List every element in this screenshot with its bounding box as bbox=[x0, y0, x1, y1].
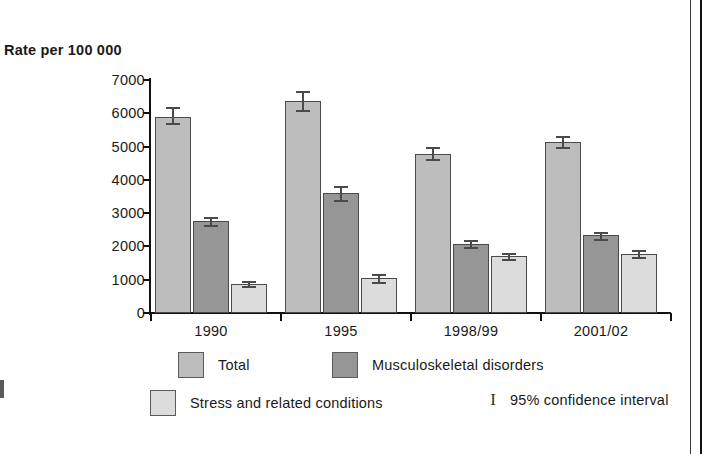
legend-swatch-total bbox=[178, 352, 204, 378]
x-tick-label: 1995 bbox=[324, 323, 357, 339]
x-tick-mark bbox=[670, 313, 672, 321]
x-tick-label: 1998/99 bbox=[444, 323, 499, 339]
error-bar-cap-lower bbox=[594, 239, 608, 241]
error-bar-cap-upper bbox=[464, 240, 478, 242]
error-bar-cap-upper bbox=[242, 281, 256, 283]
bar bbox=[583, 235, 619, 313]
legend-item-total: Total bbox=[178, 352, 250, 378]
error-bar-cap-lower bbox=[296, 110, 310, 112]
legend-label-confidence-interval: 95% confidence interval bbox=[510, 392, 669, 408]
error-bar-cap-lower bbox=[242, 286, 256, 288]
error-bar-cap-lower bbox=[502, 259, 516, 261]
error-bar-cap-upper bbox=[594, 232, 608, 234]
bar bbox=[415, 154, 451, 313]
legend-swatch-stress-and-related-conditions bbox=[150, 390, 176, 416]
legend-swatch-musculoskeletal-disorders bbox=[332, 352, 358, 378]
x-tick-mark bbox=[150, 313, 152, 321]
error-bar-cap-lower bbox=[464, 247, 478, 249]
page-border-right-inner bbox=[690, 0, 691, 454]
error-bar-cap-lower bbox=[334, 200, 348, 202]
legend-row-1: Total Musculoskeletal disorders bbox=[150, 352, 680, 386]
x-tick-mark bbox=[540, 313, 542, 321]
bar bbox=[155, 117, 191, 313]
x-tick-mark bbox=[410, 313, 412, 321]
error-bar-cap-lower bbox=[632, 257, 646, 259]
error-bar-cap-upper bbox=[204, 217, 218, 219]
x-tick-mark bbox=[280, 313, 282, 321]
bar bbox=[545, 142, 581, 313]
plot-area bbox=[150, 80, 670, 313]
legend-row-2: Stress and related conditions I 95% conf… bbox=[150, 390, 680, 424]
error-bar-cap-lower bbox=[166, 123, 180, 125]
y-tick-label: 5000 bbox=[112, 139, 145, 155]
y-tick-label: 7000 bbox=[112, 72, 145, 88]
error-bar-cap-upper bbox=[334, 186, 348, 188]
bar bbox=[285, 101, 321, 313]
page-edge-mark bbox=[0, 380, 4, 398]
error-bar-stem bbox=[340, 186, 342, 200]
bar bbox=[193, 221, 229, 313]
error-bar-cap-upper bbox=[556, 136, 570, 138]
y-tick-label: 3000 bbox=[112, 205, 145, 221]
error-bar-cap-upper bbox=[166, 107, 180, 109]
error-bar-icon: I bbox=[486, 390, 500, 410]
y-tick-label: 2000 bbox=[112, 238, 145, 254]
error-bar-cap-upper bbox=[502, 253, 516, 255]
error-bar-cap-upper bbox=[296, 91, 310, 93]
chart-legend: Total Musculoskeletal disorders Stress a… bbox=[150, 352, 680, 432]
error-bar-cap-upper bbox=[632, 250, 646, 252]
x-tick-label: 1990 bbox=[194, 323, 227, 339]
error-bar-cap-lower bbox=[372, 282, 386, 284]
bar bbox=[621, 254, 657, 313]
bar bbox=[453, 244, 489, 313]
y-tick-label: 1000 bbox=[112, 272, 145, 288]
bar bbox=[491, 256, 527, 313]
error-bar-cap-upper bbox=[426, 147, 440, 149]
error-bar-cap-lower bbox=[204, 225, 218, 227]
y-axis-tick-labels: 01000200030004000500060007000 bbox=[60, 0, 145, 454]
legend-item-stress-and-related-conditions: Stress and related conditions bbox=[150, 390, 383, 416]
y-tick-label: 6000 bbox=[112, 105, 145, 121]
error-bar-cap-lower bbox=[556, 147, 570, 149]
legend-label-stress-and-related-conditions: Stress and related conditions bbox=[190, 395, 383, 411]
legend-label-musculoskeletal-disorders: Musculoskeletal disorders bbox=[372, 357, 544, 373]
legend-item-musculoskeletal-disorders: Musculoskeletal disorders bbox=[332, 352, 544, 378]
y-tick-label: 4000 bbox=[112, 172, 145, 188]
error-bar-cap-lower bbox=[426, 159, 440, 161]
error-bar-cap-upper bbox=[372, 274, 386, 276]
bar bbox=[231, 284, 267, 313]
legend-label-total: Total bbox=[218, 357, 250, 373]
error-bar-stem bbox=[302, 91, 304, 110]
legend-item-confidence-interval: I 95% confidence interval bbox=[486, 390, 669, 410]
x-tick-label: 2001/02 bbox=[574, 323, 629, 339]
error-bar-stem bbox=[172, 107, 174, 124]
bar bbox=[323, 193, 359, 313]
page-border-right-outer bbox=[700, 0, 702, 454]
bar-chart-figure: Rate per 100 000 01000200030004000500060… bbox=[0, 0, 706, 454]
